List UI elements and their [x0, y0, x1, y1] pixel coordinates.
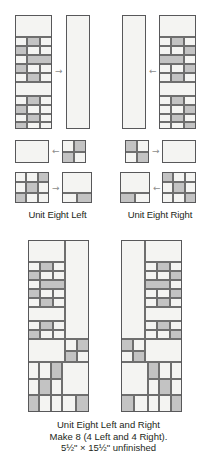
patch [62, 152, 74, 164]
patch [159, 362, 170, 379]
patch [28, 280, 40, 289]
patch [28, 271, 40, 280]
patch [28, 379, 39, 396]
patch [121, 339, 133, 351]
left-plain-strip [66, 15, 90, 129]
patch [74, 152, 86, 164]
patch [15, 73, 27, 82]
patch [27, 64, 39, 73]
patch [145, 339, 182, 362]
patch [62, 395, 76, 412]
patch [39, 379, 50, 396]
patch [15, 46, 27, 55]
patch [184, 73, 196, 82]
patch [171, 362, 182, 379]
patch [159, 15, 196, 37]
patch [40, 321, 52, 330]
patch [184, 96, 196, 105]
patch [51, 395, 62, 412]
patch [28, 362, 39, 379]
patch [39, 362, 50, 379]
patch [171, 64, 183, 73]
label-unit-eight-left: Unit Eight Left [10, 209, 105, 220]
patch [185, 193, 196, 203]
arrow-mid-left-join: ← [52, 147, 60, 156]
patch [184, 122, 196, 130]
patch [145, 280, 170, 289]
patch [157, 321, 169, 330]
patch [148, 395, 159, 412]
patch [62, 362, 89, 395]
patch [159, 379, 170, 396]
patch [28, 307, 65, 321]
patch [15, 64, 27, 73]
patch [15, 105, 27, 114]
patch [162, 193, 173, 203]
patch [159, 37, 171, 46]
patch [40, 96, 52, 105]
patch [135, 395, 149, 412]
patch [125, 140, 137, 152]
patch [173, 193, 184, 203]
left-corner-block [62, 172, 92, 203]
patch [28, 330, 40, 339]
patch [40, 271, 52, 280]
patch [133, 351, 145, 363]
right-nine-patch [162, 172, 196, 203]
patch [171, 96, 183, 105]
assembled-unit-right [121, 240, 182, 412]
caption-line-2: Make 8 (4 Left and 4 Right). [0, 431, 217, 443]
patch [15, 114, 27, 122]
patch [40, 262, 52, 271]
patch [157, 298, 169, 307]
patch [40, 64, 52, 73]
patch [159, 114, 171, 122]
patch [137, 152, 149, 164]
patch [171, 73, 183, 82]
patch [125, 152, 137, 164]
patch [121, 362, 148, 395]
patch [159, 96, 171, 105]
patch [184, 46, 196, 55]
patch [145, 271, 157, 280]
patch [65, 240, 89, 339]
patch [137, 140, 149, 152]
patch [170, 271, 182, 280]
left-plain-rectangle [15, 140, 49, 163]
patch [135, 193, 150, 203]
patch [184, 37, 196, 46]
patch [28, 321, 40, 330]
patch [40, 73, 52, 82]
patch [62, 193, 77, 203]
patch [77, 339, 89, 351]
left-nine-patch [15, 172, 49, 203]
patch [15, 82, 52, 96]
patch [53, 330, 65, 339]
patch [159, 122, 171, 130]
patch [15, 193, 26, 203]
patch [171, 379, 182, 396]
patch [170, 289, 182, 298]
patch [27, 105, 39, 114]
left-four-patch [62, 140, 86, 163]
right-plain-rectangle [162, 140, 196, 163]
patch [157, 271, 169, 280]
patch [27, 46, 39, 55]
patch [170, 330, 182, 339]
patch [159, 46, 171, 55]
patch [40, 289, 52, 298]
right-four-patch [125, 140, 149, 163]
patch [145, 307, 182, 321]
patch [159, 395, 170, 412]
patch [38, 182, 49, 192]
patch [40, 46, 52, 55]
patch [62, 140, 74, 152]
patch [62, 172, 92, 193]
patch [159, 64, 171, 73]
right-pieced-strip [159, 15, 196, 129]
patch [38, 193, 49, 203]
patch [133, 339, 145, 351]
patch [170, 262, 182, 271]
patch [15, 37, 27, 46]
arrow-low-left-join: → [52, 184, 60, 193]
